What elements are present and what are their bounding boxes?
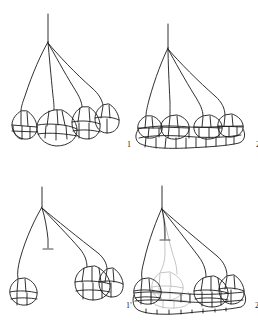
panel-1-prime-drawing xyxy=(0,161,129,321)
panel-2-drawing xyxy=(129,0,258,160)
panel-1-drawing xyxy=(0,0,129,160)
figure-plate: 1 xyxy=(0,0,258,321)
panel-2 xyxy=(129,0,258,160)
panel-1 xyxy=(0,0,129,160)
panel-1-prime xyxy=(0,161,129,321)
panel-2-caption: 2 xyxy=(129,140,258,149)
panel-2-prime xyxy=(129,161,258,321)
panel-2-prime-drawing xyxy=(129,161,258,321)
panel-2-prime-caption: 2' xyxy=(129,301,258,310)
